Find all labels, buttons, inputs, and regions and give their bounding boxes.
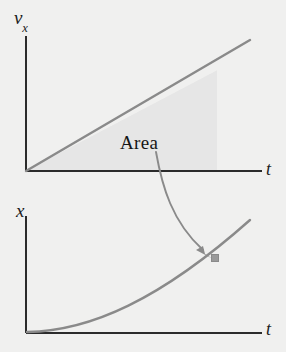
top-x-axis-label: t — [266, 160, 271, 178]
position-curve — [27, 220, 250, 332]
physics-figure-area-under-velocity-curve: vx t x t Area — [0, 0, 286, 352]
top-y-axis-label-subscript: x — [22, 21, 28, 35]
bottom-x-axis-label: t — [266, 320, 271, 338]
shaded-area-region-fill — [26, 71, 217, 172]
bottom-graph-position-vs-time — [26, 216, 262, 333]
top-y-axis-label: vx — [14, 8, 28, 31]
curve-point-marker — [212, 255, 219, 262]
figure-canvas — [0, 0, 286, 352]
bottom-y-axis-label: x — [16, 201, 24, 220]
area-annotation-label: Area — [120, 132, 158, 154]
